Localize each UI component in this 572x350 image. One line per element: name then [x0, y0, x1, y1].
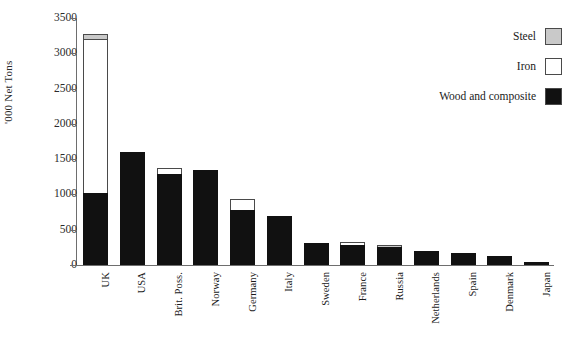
x-axis-label: Norway	[210, 272, 221, 306]
y-axis-tick-label: 3500	[13, 11, 77, 23]
x-axis-label: France	[357, 272, 368, 301]
legend-item[interactable]: Steel	[390, 28, 562, 44]
bar-segment-wood-and-composite[interactable]	[267, 216, 292, 265]
bar-group[interactable]	[414, 251, 439, 265]
y-axis-zero-tick	[70, 265, 77, 266]
bar-group[interactable]	[487, 256, 512, 265]
legend-item-label: Steel	[513, 30, 536, 42]
y-axis-title: '000 Net Tons	[2, 14, 14, 124]
bar-group[interactable]	[230, 199, 255, 265]
y-axis-tick: 0	[0, 265, 77, 266]
y-axis-tick: 1500	[0, 159, 77, 160]
bar-group[interactable]	[267, 216, 292, 265]
bar-group[interactable]	[524, 262, 549, 265]
y-axis-tick: 2500	[0, 89, 77, 90]
bar-segment-wood-and-composite[interactable]	[230, 210, 255, 265]
x-axis-label: Netherlands	[430, 272, 441, 324]
legend-item[interactable]: Iron	[390, 58, 562, 74]
y-axis-tick: 2000	[0, 124, 77, 125]
x-axis-line	[76, 265, 554, 266]
legend-item[interactable]: Wood and composite	[390, 88, 562, 104]
legend-swatch	[545, 88, 562, 105]
bar-segment-wood-and-composite[interactable]	[157, 174, 182, 265]
bar-group[interactable]	[120, 152, 145, 265]
x-axis-label: Sweden	[320, 272, 331, 306]
x-axis-label: Germany	[247, 272, 258, 312]
y-axis-tick-label: 2000	[13, 117, 77, 129]
bar-segment-wood-and-composite[interactable]	[451, 253, 476, 265]
y-axis-tick-label: 2500	[13, 82, 77, 94]
y-axis-tick-label: 500	[13, 223, 77, 235]
bar-segment-wood-and-composite[interactable]	[487, 256, 512, 265]
x-axis-label: USA	[136, 272, 147, 293]
legend-item-label: Iron	[517, 60, 536, 72]
bar-segment-wood-and-composite[interactable]	[120, 152, 145, 265]
x-axis-label: Denmark	[504, 272, 515, 312]
bar-segment-wood-and-composite[interactable]	[304, 243, 329, 265]
x-axis-label: Russia	[394, 272, 405, 301]
bar-segment-iron[interactable]	[230, 199, 255, 210]
bar-group[interactable]	[157, 168, 182, 265]
bar-segment-wood-and-composite[interactable]	[193, 170, 218, 265]
bar-group[interactable]	[377, 245, 402, 265]
y-axis-tick: 3500	[0, 18, 77, 19]
bar-group[interactable]	[304, 243, 329, 265]
y-axis-tick: 3000	[0, 53, 77, 54]
bar-segment-wood-and-composite[interactable]	[83, 193, 108, 265]
y-axis-tick-label: 1000	[13, 187, 77, 199]
x-axis-label: Spain	[467, 272, 478, 296]
y-axis-tick: 1000	[0, 194, 77, 195]
x-axis-label: UK	[100, 272, 111, 287]
bar-segment-wood-and-composite[interactable]	[524, 262, 549, 265]
legend-item-label: Wood and composite	[439, 90, 536, 102]
x-axis-label: Brit. Poss.	[173, 272, 184, 317]
y-axis-tick: 500	[0, 230, 77, 231]
bar-group[interactable]	[451, 253, 476, 265]
legend: SteelIronWood and composite	[390, 28, 562, 118]
bar-segment-wood-and-composite[interactable]	[377, 247, 402, 265]
bar-segment-wood-and-composite[interactable]	[340, 245, 365, 265]
x-axis-label: Japan	[541, 272, 552, 296]
x-axis-label: Italy	[283, 272, 294, 292]
legend-swatch	[545, 58, 562, 75]
bar-group[interactable]	[83, 34, 108, 265]
y-axis-tick-label: 1500	[13, 152, 77, 164]
bar-group[interactable]	[193, 170, 218, 265]
bar-group[interactable]	[340, 242, 365, 265]
bar-chart: '000 Net Tons 35003000250020001500100050…	[0, 0, 572, 350]
y-axis-tick-label: 3000	[13, 46, 77, 58]
y-axis-tick-label: 0	[13, 258, 77, 270]
legend-swatch	[545, 28, 562, 45]
bar-segment-iron[interactable]	[83, 39, 108, 193]
bar-segment-wood-and-composite[interactable]	[414, 251, 439, 265]
